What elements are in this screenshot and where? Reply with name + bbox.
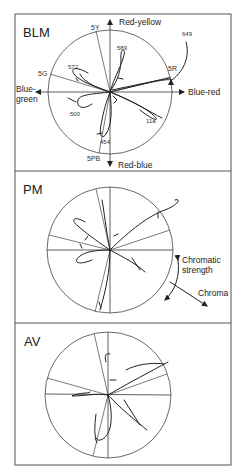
legend-chromatic-strength-2: strength [182,265,213,275]
panel-label: PM [23,182,43,197]
locus-red-2 [126,363,164,370]
panel-label: AV [24,334,41,349]
locus-649-return [112,78,170,90]
axis-label-blue-green-1: Blue- [16,84,36,94]
chromatic-strength-arrow [165,260,178,300]
figure: BLM Red-yellow Blue-red Blue- green Red-… [0,0,243,476]
hue-label-5g: 5G [38,70,47,77]
legend-chroma: Chroma [198,288,229,298]
locus-11a [110,92,156,120]
hue-label-5r: 5R [168,65,177,72]
hue-line-5r [110,230,170,250]
tick-blue [99,302,101,308]
locus-yellow [102,200,110,250]
axis-label-red-blue: Red-blue [118,160,153,170]
wavelength-label-454: 454 [100,139,111,145]
locus-blue [100,250,110,310]
axis-label-blue-red: Blue-red [188,87,220,97]
hue-line-5g [47,378,108,395]
panel-label: BLM [23,25,50,40]
locus-blue [95,395,111,440]
locus-572-return [80,74,110,92]
locus-center [113,96,117,103]
wavelength-label-649: 649 [182,31,193,37]
hue-line-5y [96,31,110,92]
locus-bluegreen [76,250,110,263]
axis-label-red-yellow: Red-yellow [119,17,162,27]
locus-11a-return [110,92,162,118]
locus-red [108,362,168,395]
figure-frame [15,14,231,465]
axis-label-blue-green-2: green [16,94,38,104]
tick-bluegreen [80,244,82,248]
locus-589 [110,50,124,92]
locus-bluered [110,250,145,272]
tick-500 [68,98,76,102]
panel-blm: BLM Red-yellow Blue-red Blue- green Red-… [16,17,220,170]
tick-589 [118,78,123,79]
tick-yellow [114,234,118,236]
wavelength-label-500: 500 [70,111,81,117]
panel-pm: PM Chromatic strength Chroma [23,182,229,313]
locus-bluered [108,395,147,430]
hue-line-5g [49,235,110,250]
hue-line-5r [108,374,167,395]
locus-572 [73,69,110,92]
tick-green [85,236,88,240]
hue-line-5y [94,333,108,395]
tick-572 [76,78,78,81]
hue-label-5y: 5Y [91,24,100,31]
hue-label-5pb: 5PB [87,155,101,162]
tick-454 [97,133,102,134]
legend-chromatic-strength-1: Chromatic [182,255,221,265]
panel-av: AV [24,332,171,458]
locus-bluered-return [132,258,140,270]
